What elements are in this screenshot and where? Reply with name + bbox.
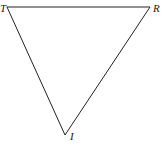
vertex-label-r: R xyxy=(152,2,160,14)
edge-it xyxy=(7,7,65,135)
edge-ri xyxy=(65,7,150,135)
vertex-label-t: T xyxy=(0,2,7,14)
vertex-label-i: I xyxy=(69,130,75,142)
triangle-diagram: T R I xyxy=(0,0,163,147)
